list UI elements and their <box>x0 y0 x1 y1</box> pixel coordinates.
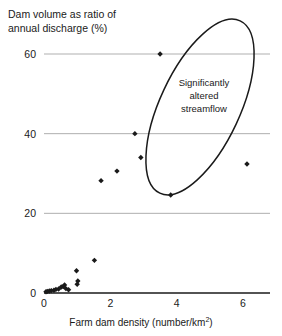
data-point <box>74 268 79 273</box>
annotation-line: Significantly <box>179 77 230 88</box>
x-tick-label: 6 <box>240 297 246 309</box>
x-tick-label: 0 <box>41 297 47 309</box>
x-axis-label-main: Farm dam density (number/km <box>69 317 205 328</box>
x-tick-label: 4 <box>174 297 180 309</box>
data-point <box>168 192 173 197</box>
data-point <box>157 51 162 56</box>
y-tick-label: 40 <box>24 128 36 140</box>
data-point <box>132 131 137 136</box>
annotation-line: altered <box>189 90 218 101</box>
x-axis-tick-labels: 0246 <box>41 297 246 309</box>
y-tick-label: 60 <box>24 48 36 60</box>
y-tick-label: 20 <box>24 207 36 219</box>
data-point <box>92 258 97 263</box>
x-axis-label-tail: ) <box>209 317 212 328</box>
y-tick-label: 0 <box>30 287 36 299</box>
annotation-line: streamflow <box>181 103 227 114</box>
x-tick-label: 2 <box>107 297 113 309</box>
data-point <box>98 178 103 183</box>
chart-container: Dam volume as ratio of annual discharge … <box>0 0 282 336</box>
annotation-label: Significantlyalteredstreamflow <box>179 77 230 114</box>
data-point <box>138 155 143 160</box>
chart-svg: 0204060 0246 Significantlyalteredstreamf… <box>0 0 282 336</box>
y-axis-tick-labels: 0204060 <box>24 48 36 299</box>
x-axis-label: Farm dam density (number/km2) <box>0 316 282 328</box>
data-point <box>114 168 119 173</box>
data-point <box>244 161 249 166</box>
gridlines <box>44 54 270 213</box>
